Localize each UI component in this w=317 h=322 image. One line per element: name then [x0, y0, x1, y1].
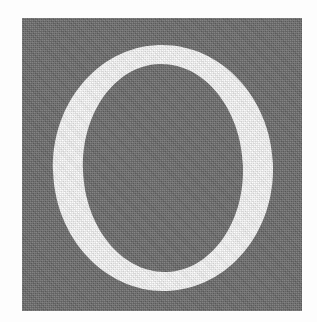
scanned-page	[0, 0, 317, 322]
letter-o-path	[48, 41, 277, 295]
letter-o-glyph	[22, 18, 302, 311]
gray-square-panel	[22, 18, 302, 311]
letter-o-layer	[22, 18, 302, 311]
